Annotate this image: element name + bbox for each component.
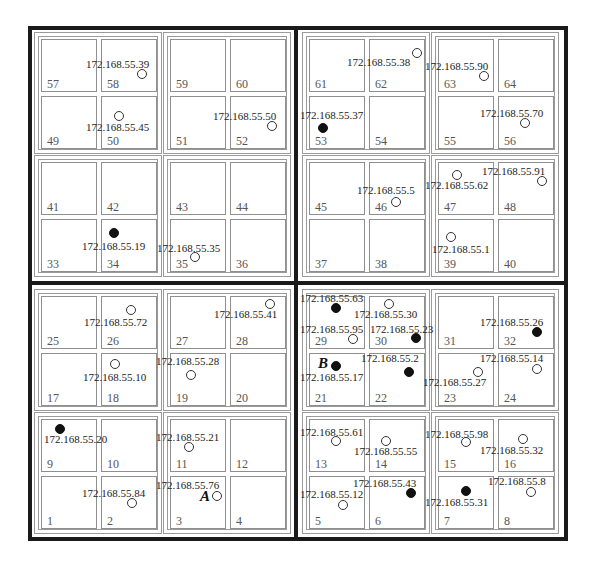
cell-number: 44	[236, 201, 248, 213]
grid-cell: 44	[230, 162, 286, 215]
cell-number: 35	[176, 258, 188, 270]
node-ip-label: 172.168.55.32	[480, 445, 543, 456]
grid-cell: 4	[230, 476, 286, 529]
grid-cell: 20	[230, 353, 286, 406]
cell-number: 48	[504, 201, 516, 213]
open-node-icon	[520, 118, 530, 128]
open-node-icon	[384, 299, 394, 309]
cell-number: 8	[504, 515, 510, 527]
open-node-icon	[391, 197, 401, 207]
filled-node-icon	[532, 327, 542, 337]
cell-number: 55	[444, 135, 456, 147]
cell-number: 14	[375, 458, 387, 470]
cell-number: 19	[176, 392, 188, 404]
grid-cell: 41	[41, 162, 97, 215]
node-ip-label: 172.168.55.26	[480, 317, 543, 328]
cell-number: 29	[315, 335, 327, 347]
open-node-icon	[127, 498, 137, 508]
filled-node-icon	[404, 367, 414, 377]
cell-block: 91012	[34, 412, 162, 534]
cell-number: 11	[176, 458, 188, 470]
node-ip-label: 172.168.55.2	[361, 353, 419, 364]
cell-number: 51	[176, 135, 188, 147]
grid-cell: 28	[230, 296, 286, 349]
cell-block: 25261718	[34, 289, 162, 411]
node-ip-label: 172.168.55.17	[300, 372, 363, 383]
cell-number: 33	[47, 258, 59, 270]
node-ip-label: 172.168.55.72	[84, 317, 147, 328]
grid-cell: 27	[170, 296, 226, 349]
cell-block: 45463738	[302, 155, 430, 277]
cell-number: 13	[315, 458, 327, 470]
grid-cell: 54	[369, 96, 425, 149]
cell-number: 56	[504, 135, 516, 147]
node-ip-label: 172.168.55.50	[213, 111, 276, 122]
cell-block: 31322324	[431, 289, 559, 411]
cell-number: 1	[47, 515, 53, 527]
cell-number: 50	[107, 135, 119, 147]
node-ip-label: 172.168.55.1	[432, 244, 490, 255]
node-ip-label: 172.168.55.8	[488, 476, 546, 487]
open-node-icon	[446, 232, 456, 242]
grid-cell: 42	[101, 162, 157, 215]
cell-number: 20	[236, 392, 248, 404]
network-grid-diagram: 5758495059605152616253546364555641423334…	[0, 0, 590, 565]
cell-number: 5	[315, 515, 321, 527]
filled-node-icon	[461, 486, 471, 496]
open-node-icon	[110, 359, 120, 369]
open-node-icon	[348, 334, 358, 344]
cell-number: 22	[375, 392, 387, 404]
cell-number: 10	[107, 458, 119, 470]
open-node-icon	[461, 437, 471, 447]
open-node-icon	[479, 71, 489, 81]
filled-node-icon	[411, 333, 421, 343]
open-node-icon	[114, 111, 124, 121]
node-ip-label: 172.168.55.12	[300, 489, 363, 500]
cell-block: 59605152	[163, 32, 291, 154]
filled-node-icon	[406, 488, 416, 498]
grid-cell: 51	[170, 96, 226, 149]
grid-cell: 1	[41, 476, 97, 529]
cell-number: 12	[236, 458, 248, 470]
cell-block: 41423334	[34, 155, 162, 277]
cell-number: 37	[315, 258, 327, 270]
open-node-icon	[212, 491, 222, 501]
node-ip-label: 172.168.55.23	[370, 324, 433, 335]
cell-number: 49	[47, 135, 59, 147]
cell-number: 3	[176, 515, 182, 527]
node-ip-label: 172.168.55.30	[354, 309, 417, 320]
cell-number: 17	[47, 392, 59, 404]
cell-number: 59	[176, 78, 188, 90]
node-ip-label: 172.168.55.10	[83, 372, 146, 383]
cell-number: 30	[375, 335, 387, 347]
grid-cell: 43	[170, 162, 226, 215]
open-node-icon	[473, 367, 483, 377]
cell-number: 41	[47, 201, 59, 213]
marker-label-a: A	[200, 489, 210, 504]
cell-number: 23	[444, 392, 456, 404]
cell-number: 24	[504, 392, 516, 404]
cell-number: 46	[375, 201, 387, 213]
node-ip-label: 172.168.55.90	[425, 61, 488, 72]
cell-number: 63	[444, 78, 456, 90]
cell-number: 9	[47, 458, 53, 470]
grid-cell: 40	[498, 219, 554, 272]
grid-cell: 11	[170, 419, 226, 472]
grid-cell: 55	[438, 96, 494, 149]
filled-node-icon	[318, 123, 328, 133]
filled-node-icon	[55, 424, 65, 434]
cell-number: 2	[107, 515, 113, 527]
cell-number: 43	[176, 201, 188, 213]
cell-number: 25	[47, 335, 59, 347]
open-node-icon	[267, 121, 277, 131]
node-ip-label: 172.168.55.95	[300, 324, 363, 335]
open-node-icon	[186, 370, 196, 380]
cell-number: 16	[504, 458, 516, 470]
cell-number: 39	[444, 258, 456, 270]
cell-number: 38	[375, 258, 387, 270]
cell-number: 26	[107, 335, 119, 347]
open-node-icon	[190, 252, 200, 262]
node-ip-label: 172.168.55.84	[82, 488, 145, 499]
grid-cell: 12	[230, 419, 286, 472]
horizontal-divider	[28, 281, 568, 285]
